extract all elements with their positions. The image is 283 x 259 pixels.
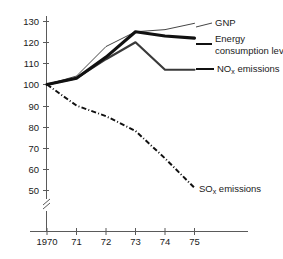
series-label-nox: NOx emissions xyxy=(217,63,280,75)
x-tick-label-75: 75 xyxy=(189,236,200,247)
x-tick-label-73: 73 xyxy=(130,236,141,247)
y-tick-label-70: 70 xyxy=(28,143,39,154)
series-line-gnp xyxy=(47,23,195,84)
y-tick-label-60: 60 xyxy=(28,164,39,175)
chart-canvas: 130 120 110 100 90 80 70 60 50 1970 71 7… xyxy=(0,0,283,259)
series-label-energy-line2: consumption level xyxy=(215,45,283,56)
sox-suffix: emissions xyxy=(216,183,261,194)
y-tick-label-100: 100 xyxy=(23,79,39,90)
line-chart: 130 120 110 100 90 80 70 60 50 1970 71 7… xyxy=(0,0,283,259)
x-tick-label-74: 74 xyxy=(160,236,171,247)
series-label-energy-line1: Energy xyxy=(215,33,245,44)
axis-break-icon xyxy=(43,199,50,209)
y-tick-label-80: 80 xyxy=(28,122,39,133)
nox-suffix: emissions xyxy=(235,63,280,74)
y-tick-label-130: 130 xyxy=(23,16,39,27)
series-label-sox: SOx emissions xyxy=(199,183,261,195)
series-line-energy-consumption xyxy=(47,32,195,85)
leader-line-gnp xyxy=(196,23,212,27)
y-tick-label-110: 110 xyxy=(24,58,39,69)
x-tick-label-1970: 1970 xyxy=(36,236,57,247)
y-tick-label-120: 120 xyxy=(23,37,39,48)
sox-prefix: SO xyxy=(199,183,213,194)
nox-prefix: NO xyxy=(217,63,231,74)
series-line-sox-emissions xyxy=(47,85,195,188)
series-label-gnp: GNP xyxy=(215,17,236,28)
y-tick-label-50: 50 xyxy=(28,185,39,196)
x-tick-label-71: 71 xyxy=(71,236,82,247)
x-tick-label-72: 72 xyxy=(101,236,112,247)
y-tick-label-90: 90 xyxy=(28,101,39,112)
